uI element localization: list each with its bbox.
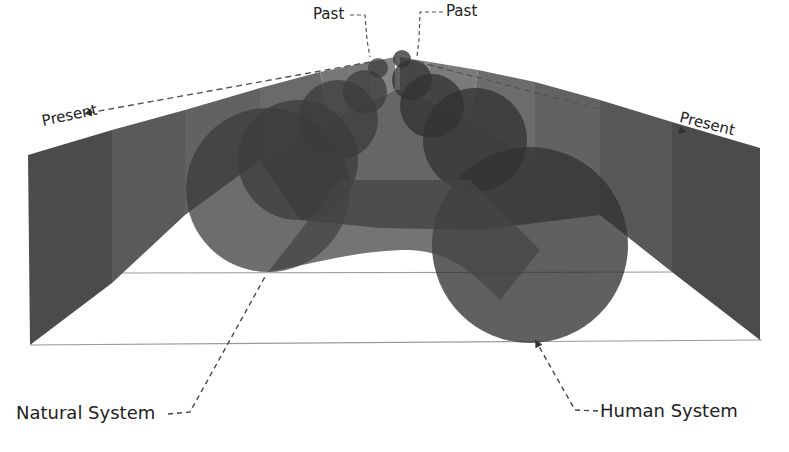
past-label-left: Past [313,5,344,23]
past-leaders [350,12,443,57]
human-system-label: Human System [600,400,738,421]
diagram-canvas: Past Past Present Present Natural System… [0,0,789,452]
diagram-svg [0,0,789,452]
floor [30,272,762,345]
natural-system-label: Natural System [16,402,155,423]
floor-front-line [30,340,762,345]
past-left-leader [350,15,370,57]
past-label-right: Past [446,2,477,20]
past-right-leader [417,12,443,56]
human-system-leader [537,343,598,411]
